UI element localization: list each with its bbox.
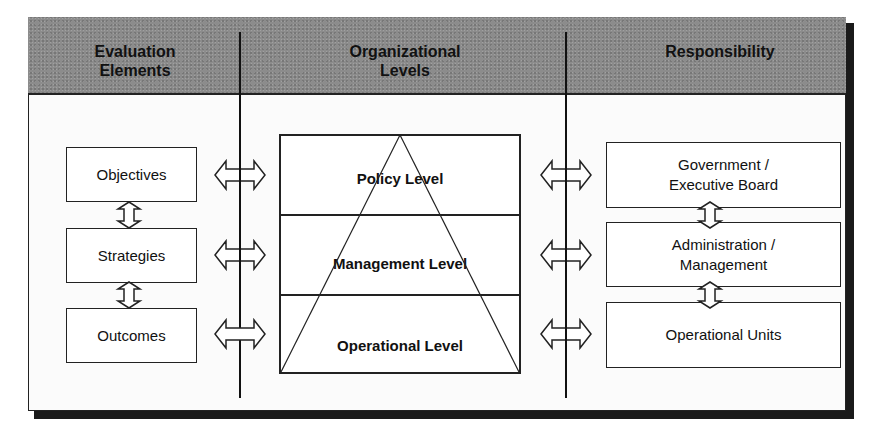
double-arrow-icon [215,320,265,348]
connectors-overlay [0,0,876,440]
vertical-double-arrow-icon [699,282,721,308]
vertical-double-arrow-icon [699,202,721,228]
vertical-double-arrow-icon [118,282,140,308]
vertical-double-arrow-icon [118,202,140,228]
pyramid-triangle [281,135,519,372]
